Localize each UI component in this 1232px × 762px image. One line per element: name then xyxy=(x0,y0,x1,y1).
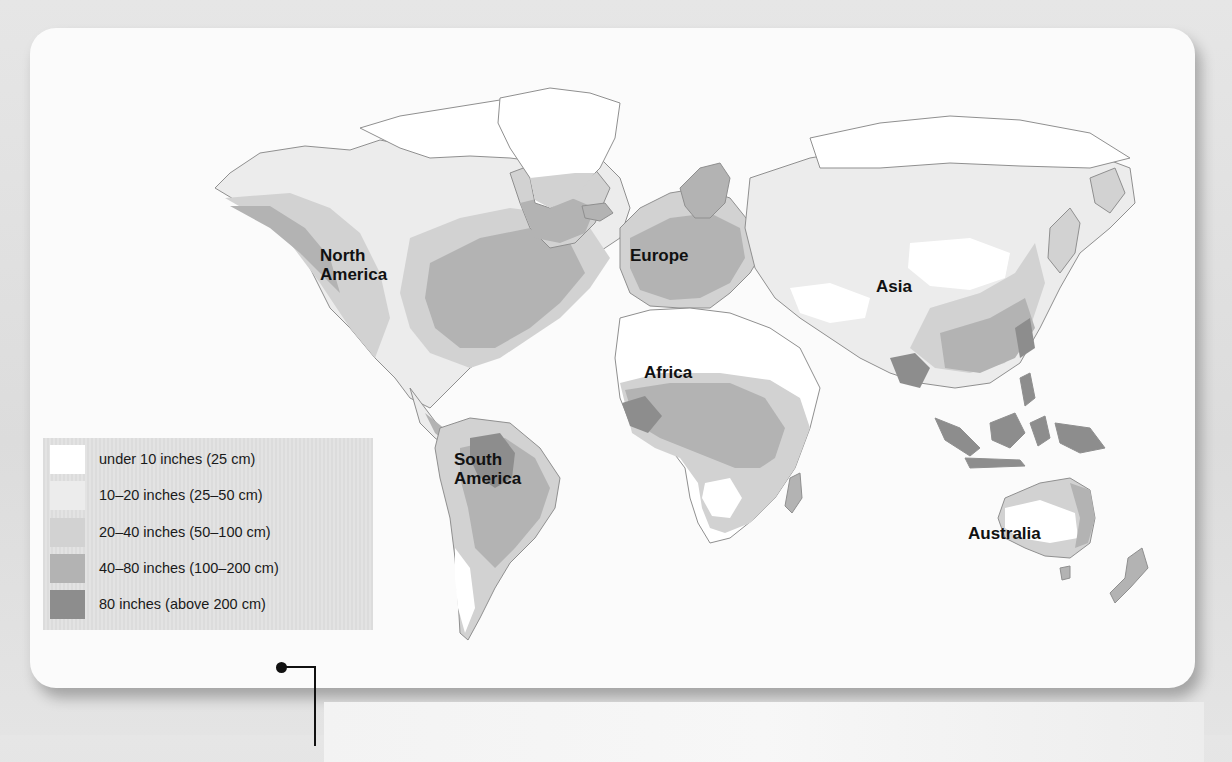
legend-label: 10–20 inches (25–50 cm) xyxy=(99,487,263,503)
legend-swatch xyxy=(50,590,85,619)
legend-label: 40–80 inches (100–200 cm) xyxy=(99,560,279,576)
europe-region xyxy=(620,163,765,308)
asia-region xyxy=(745,116,1135,388)
legend-item: 10–20 inches (25–50 cm) xyxy=(50,480,263,510)
label-africa: Africa xyxy=(644,363,692,382)
label-asia: Asia xyxy=(876,277,912,296)
label-europe: Europe xyxy=(630,246,689,265)
callout-connector-line xyxy=(314,666,316,746)
legend-label: 20–40 inches (50–100 cm) xyxy=(99,524,271,540)
legend-item: under 10 inches (25 cm) xyxy=(50,444,255,474)
legend-swatch xyxy=(50,445,85,474)
label-north-america: North America xyxy=(320,246,387,284)
legend-swatch xyxy=(50,554,85,583)
legend-swatch xyxy=(50,481,85,510)
label-australia: Australia xyxy=(968,524,1041,543)
legend-item: 20–40 inches (50–100 cm) xyxy=(50,517,271,547)
map-card: North America Europe Asia Africa South A… xyxy=(30,28,1195,688)
legend-label: 80 inches (above 200 cm) xyxy=(99,596,266,612)
legend-swatch xyxy=(50,518,85,547)
precipitation-legend: under 10 inches (25 cm) 10–20 inches (25… xyxy=(43,438,373,630)
label-south-america: South America xyxy=(454,450,521,488)
legend-item: 80 inches (above 200 cm) xyxy=(50,589,266,619)
callout-connector-line xyxy=(281,666,316,668)
legend-item: 40–80 inches (100–200 cm) xyxy=(50,553,279,583)
callout-box xyxy=(324,702,1204,762)
legend-label: under 10 inches (25 cm) xyxy=(99,451,255,467)
africa-region xyxy=(615,308,820,543)
